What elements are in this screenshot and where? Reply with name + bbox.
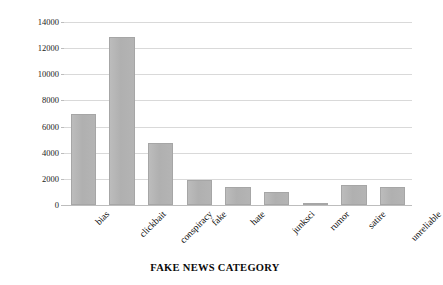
gridline (64, 205, 412, 206)
y-axis-tick-label: 4000 (42, 148, 59, 158)
x-axis-tick-label-fake: fake (210, 209, 229, 228)
x-axis-tick-labels: biasclickbaitconspiracyfakehatejunksciru… (64, 207, 412, 259)
y-axis-tick-label: 0 (55, 200, 59, 210)
bar-rumor (303, 203, 329, 205)
y-axis-tick-label: 10000 (38, 69, 59, 79)
y-axis-tick-mark (61, 205, 64, 206)
x-axis-tick-label-junksci: junksci (290, 209, 316, 235)
bar-fake (187, 180, 213, 205)
bar-unreliable (380, 187, 406, 205)
y-axis-tick-label: 6000 (42, 122, 59, 132)
y-axis-tick-label: 8000 (42, 95, 59, 105)
x-axis-tick-label-unreliable: unreliable (409, 209, 443, 243)
x-axis-title: FAKE NEWS CATEGORY (0, 262, 430, 273)
y-axis-tick-label: 12000 (38, 43, 59, 53)
bars-group (64, 22, 412, 205)
bar-clickbait (109, 37, 135, 205)
bar-bias (71, 114, 97, 205)
y-axis-tick-label: 2000 (42, 174, 59, 184)
x-axis-tick-label-conspiracy: conspiracy (178, 209, 214, 245)
x-axis-tick-label-bias: bias (93, 209, 111, 227)
plot-area: 02000400060008000100001200014000 (64, 22, 412, 205)
bar-conspiracy (148, 143, 174, 205)
bar-hate (225, 187, 251, 205)
y-axis-tick-label: 14000 (38, 17, 59, 27)
bar-satire (341, 185, 367, 205)
x-axis-tick-label-rumor: rumor (328, 209, 351, 232)
x-axis-tick-label-clickbait: clickbait (137, 209, 167, 239)
x-axis-tick-label-hate: hate (248, 209, 266, 227)
x-axis-tick-label-satire: satire (366, 209, 388, 231)
bar-junksci (264, 192, 290, 205)
